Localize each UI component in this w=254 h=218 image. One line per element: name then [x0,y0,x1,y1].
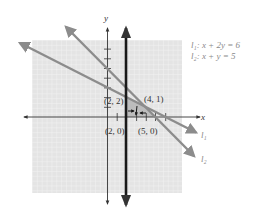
point-label-4-1: (4, 1) [144,94,164,104]
grid-background [32,40,182,193]
point-label-2-2: (2, 2) [104,96,124,106]
x-axis-label: x [200,112,205,122]
line-l1-label: l₁ [201,130,207,140]
linear-programming-diagram: y x (2, 2) (4, 1) (2, 0) (5, 0) l₁ l₂ l₁… [0,0,254,218]
point-label-2-0: (2, 0) [105,126,125,136]
legend: l₁: x + 2y = 6 l₂: x + y = 5 [191,40,241,61]
y-axis-label: y [103,13,108,23]
legend-l1: l₁: x + 2y = 6 [191,40,241,50]
legend-l2: l₂: x + y = 5 [191,51,236,61]
line-l2-label: l₂ [201,154,207,164]
point-label-5-0: (5, 0) [138,126,158,136]
